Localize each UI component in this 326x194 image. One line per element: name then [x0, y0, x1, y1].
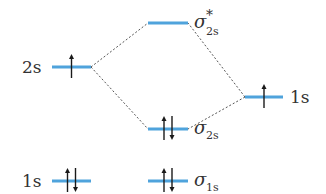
correlation-lines: [91, 23, 245, 129]
label-left-2s: 2s: [22, 57, 42, 77]
label-right-1s: 1s: [290, 87, 310, 107]
correlation-line-left-2s-to-sigma-star-2s: [91, 23, 148, 67]
label-left-1s: 1s: [22, 171, 42, 191]
label-sigma-star-2s: σ * 2s: [194, 7, 219, 38]
mo-superscript: *: [206, 7, 213, 23]
mo-subscript: 2s: [206, 129, 219, 142]
mo-subscript: 2s: [206, 25, 219, 38]
mo-subscript: 1s: [206, 181, 219, 194]
label-sigma-1s: σ 1s: [194, 169, 219, 194]
correlation-line-left-2s-to-sigma-2s: [91, 67, 148, 129]
label-sigma-2s: σ 2s: [194, 117, 219, 142]
mo-diagram: 2s 1s 1s σ * 2s σ 2s σ 1s: [0, 0, 326, 194]
electron-arrows: [65, 54, 267, 192]
